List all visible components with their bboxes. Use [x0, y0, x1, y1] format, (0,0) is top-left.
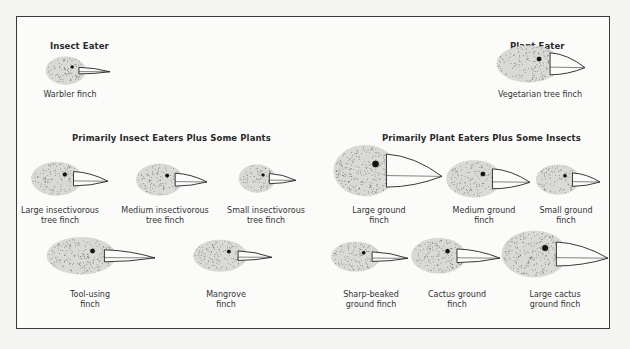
eye-mark [372, 160, 380, 168]
finch-medium-insectivorous [135, 162, 207, 196]
finch-label-medium-insectivorous: Medium insectivoroustree finch [121, 206, 209, 226]
finch-label-line: Medium ground [453, 206, 516, 216]
finch-cactus-ground [410, 236, 500, 274]
eye-mark [445, 249, 450, 254]
beak-shape [238, 251, 272, 261]
beak-shape [269, 174, 296, 184]
finch-head-illustration [135, 162, 207, 196]
eye-mark [165, 173, 170, 178]
eye-mark [226, 249, 231, 254]
finch-label-line: Warbler finch [43, 90, 96, 100]
beak-shape [386, 154, 442, 187]
finch-head-illustration [410, 236, 500, 274]
finch-head-illustration [30, 160, 108, 196]
finch-large-ground [332, 142, 442, 197]
finch-label-line: finch [352, 216, 405, 226]
finch-label-line: Small insectivorous [227, 206, 305, 216]
finch-label-line: Large ground [352, 206, 405, 216]
finch-label-line: tree finch [227, 216, 305, 226]
eye-mark [261, 173, 265, 177]
finch-label-line: Tool-using [70, 290, 110, 300]
finch-head-illustration [535, 163, 600, 195]
beak-shape [79, 67, 110, 74]
finch-label-line: ground finch [529, 300, 580, 310]
beak-shape [492, 169, 530, 189]
eye-mark [62, 172, 67, 177]
eye-mark [70, 65, 74, 69]
finch-label-mangrove: Mangrovefinch [206, 290, 246, 310]
finch-label-line: finch [70, 300, 110, 310]
finch-head-illustration [495, 43, 585, 83]
finch-label-large-insectivorous: Large insectivoroustree finch [21, 206, 99, 226]
eye-mark [361, 251, 365, 255]
finch-large-insectivorous [30, 160, 108, 196]
eye-mark [90, 248, 96, 254]
finch-label-line: Vegetarian tree finch [498, 90, 582, 100]
finch-label-line: tree finch [21, 216, 99, 226]
finch-label-small-ground: Small groundfinch [539, 206, 592, 226]
finch-label-large-cactus: Large cactusground finch [529, 290, 580, 310]
beak-shape [74, 172, 108, 186]
beak-shape [175, 173, 207, 186]
finch-label-large-ground: Large groundfinch [352, 206, 405, 226]
finch-label-line: ground finch [343, 300, 399, 310]
finch-label-line: Sharp-beaked [343, 290, 399, 300]
finch-vegetarian [495, 43, 585, 83]
eye-mark [563, 174, 567, 178]
finch-head-illustration [192, 238, 272, 272]
finch-label-line: finch [453, 216, 516, 226]
eye-mark [536, 56, 542, 62]
beak-shape [372, 252, 408, 262]
finch-label-line: finch [539, 216, 592, 226]
finch-large-cactus [500, 228, 608, 278]
finch-label-medium-ground: Medium groundfinch [453, 206, 516, 226]
finch-head-illustration [500, 228, 608, 278]
beak-shape [556, 242, 608, 266]
finch-label-line: Large insectivorous [21, 206, 99, 216]
finch-mangrove [192, 238, 272, 272]
finch-label-line: Medium insectivorous [121, 206, 209, 216]
finch-head-illustration [238, 163, 296, 193]
finch-label-sharp-beaked: Sharp-beakedground finch [343, 290, 399, 310]
finch-label-line: Mangrove [206, 290, 246, 300]
beak-shape [572, 173, 600, 186]
finch-head-illustration [332, 142, 442, 197]
finch-label-line: finch [206, 300, 246, 310]
finch-label-line: Small ground [539, 206, 592, 216]
finch-label-tool-using: Tool-usingfinch [70, 290, 110, 310]
finch-label-vegetarian: Vegetarian tree finch [498, 90, 582, 100]
finch-label-line: Large cactus [529, 290, 580, 300]
eye-mark [542, 245, 549, 252]
beak-shape [457, 249, 500, 263]
finch-small-ground [535, 163, 600, 195]
heading-insect-plus-plants: Primarily Insect Eaters Plus Some Plants [72, 133, 271, 143]
eye-mark [480, 171, 486, 177]
finch-label-line: Cactus ground [428, 290, 486, 300]
heading-insect-eater: Insect Eater [50, 41, 109, 51]
finch-warbler [45, 55, 110, 85]
finch-head-illustration [330, 240, 408, 272]
finch-label-line: finch [428, 300, 486, 310]
finch-head-illustration [45, 55, 110, 85]
finch-small-insectivorous [238, 163, 296, 193]
finch-medium-ground [445, 158, 530, 198]
finch-label-line: tree finch [121, 216, 209, 226]
finch-sharp-beaked [330, 240, 408, 272]
finch-label-small-insectivorous: Small insectivoroustree finch [227, 206, 305, 226]
finch-label-cactus-ground: Cactus groundfinch [428, 290, 486, 310]
finch-head-illustration [45, 235, 155, 275]
finch-head-illustration [445, 158, 530, 198]
finch-label-warbler: Warbler finch [43, 90, 96, 100]
beak-shape [550, 53, 585, 75]
beak-shape [104, 250, 155, 262]
finch-tool-using [45, 235, 155, 275]
